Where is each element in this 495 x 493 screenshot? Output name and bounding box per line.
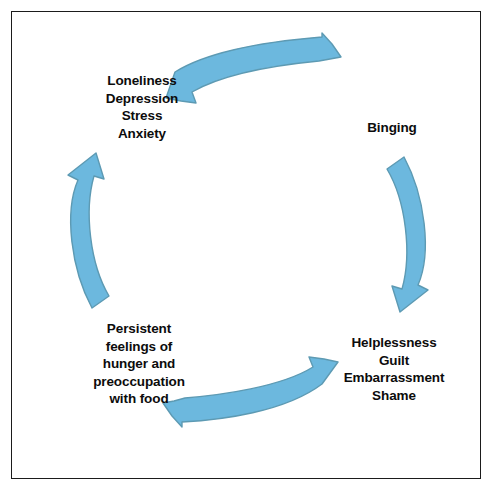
- cycle-node-label-mood-states: Loneliness Depression Stress Anxiety: [62, 72, 222, 142]
- cycle-node-label-negative-emotions: Helplessness Guilt Embarrassment Shame: [318, 334, 470, 404]
- arrow-right-down-icon: [387, 157, 428, 312]
- cycle-node-label-hunger-preoccupation: Persistent feelings of hunger and preocc…: [56, 320, 222, 408]
- cycle-node-label-binging: Binging: [340, 119, 444, 137]
- arrow-left-up-icon: [68, 153, 109, 308]
- diagram-canvas: Loneliness Depression Stress Anxiety Bin…: [0, 0, 495, 493]
